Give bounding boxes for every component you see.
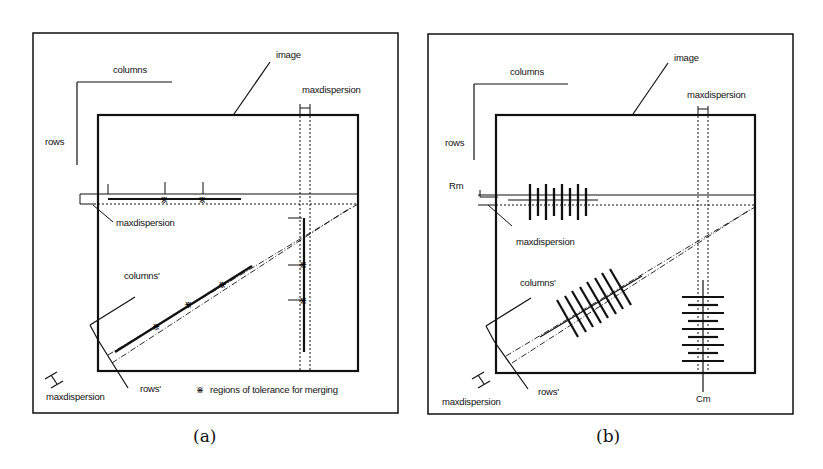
panel-a: ⋇ ⋇ ⋇ ⋇ ⋇ ⋇ ⋇ columns rows image maxdisp… xyxy=(0,0,420,469)
svg-text:⋇: ⋇ xyxy=(184,299,192,310)
label-maxdispersion-left: maxdispersion xyxy=(116,217,175,228)
label-maxdispersion-top: maxdispersion xyxy=(687,89,746,100)
label-columns-prime: columns' xyxy=(520,277,556,288)
legend-label: regions of tolerance for merging xyxy=(210,384,338,395)
label-rows: rows xyxy=(45,136,64,147)
caption-b: (b) xyxy=(596,426,620,446)
label-maxdispersion-bottom: maxdispersion xyxy=(46,391,105,402)
svg-text:⋇: ⋇ xyxy=(198,194,206,205)
svg-text:⋇: ⋇ xyxy=(160,194,168,205)
svg-text:⋇: ⋇ xyxy=(152,321,160,332)
label-image: image xyxy=(674,52,699,63)
label-rows-prime: rows' xyxy=(140,383,161,394)
label-columns: columns xyxy=(510,66,544,77)
label-maxdispersion-left: maxdispersion xyxy=(516,236,575,247)
label-cm: Cm xyxy=(696,393,710,404)
image-rect xyxy=(98,115,358,371)
label-maxdispersion-top: maxdispersion xyxy=(302,84,361,95)
panel-b: columns rows image maxdispersion Rm maxd… xyxy=(420,0,823,469)
rm-hatch xyxy=(530,184,586,220)
svg-text:⋇: ⋇ xyxy=(218,279,226,290)
caption-a: (a) xyxy=(193,426,216,446)
label-columns: columns xyxy=(113,64,147,75)
svg-text:⋇: ⋇ xyxy=(299,295,307,306)
label-maxdispersion-bottom: maxdispersion xyxy=(442,396,501,407)
label-rm: Rm xyxy=(449,180,463,191)
label-rows: rows xyxy=(445,137,464,148)
legend-symbol-icon: ⋇ xyxy=(196,384,204,395)
label-rows-prime: rows' xyxy=(538,386,559,397)
label-columns-prime: columns' xyxy=(124,270,160,281)
svg-text:⋇: ⋇ xyxy=(299,259,307,270)
label-image: image xyxy=(276,49,301,60)
